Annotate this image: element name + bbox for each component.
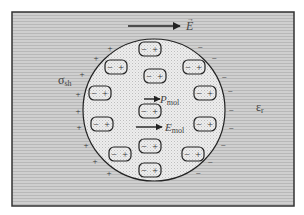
positive-charge: + (152, 141, 158, 152)
negative-charge: − (184, 149, 190, 160)
surface-negative-charge: − (197, 42, 202, 52)
surface-negative-charge: − (211, 53, 216, 63)
negative-charge: − (107, 62, 113, 73)
surface-positive-charge: + (75, 106, 80, 116)
negative-charge: − (196, 88, 202, 99)
vector-accent: → (187, 15, 194, 23)
negative-charge: − (91, 88, 97, 99)
positive-charge: + (102, 88, 108, 99)
diagram-canvas: E → +++++++++−−−−−−−−− −+−+−+−+−+−+−+−+−… (0, 0, 304, 215)
surface-negative-charge: − (220, 140, 225, 150)
positive-charge: + (157, 71, 163, 82)
dielectric-diagram: E → +++++++++−−−−−−−−− −+−+−+−+−+−+−+−+−… (0, 0, 304, 215)
positive-charge: + (207, 119, 213, 130)
surface-negative-charge: − (228, 105, 233, 115)
surface-positive-charge: + (79, 69, 84, 79)
surface-negative-charge: − (227, 86, 232, 96)
negative-charge: − (93, 119, 99, 130)
negative-charge: − (141, 106, 147, 117)
surface-positive-charge: + (92, 156, 97, 166)
positive-charge: + (152, 165, 158, 176)
surface-positive-charge: + (107, 43, 112, 53)
surface-positive-charge: + (75, 89, 80, 99)
positive-charge: + (207, 88, 213, 99)
negative-charge: − (141, 165, 147, 176)
positive-charge: + (195, 149, 201, 160)
surface-negative-charge: − (228, 123, 233, 133)
positive-charge: + (122, 149, 128, 160)
negative-charge: − (185, 62, 191, 73)
positive-charge: + (118, 62, 124, 73)
surface-negative-charge: − (207, 157, 212, 167)
positive-charge: + (152, 44, 158, 55)
negative-charge: − (146, 71, 152, 82)
surface-positive-charge: + (106, 168, 111, 178)
surface-positive-charge: + (83, 140, 88, 150)
negative-charge: − (141, 141, 147, 152)
positive-charge: + (104, 119, 110, 130)
negative-charge: − (141, 44, 147, 55)
surface-positive-charge: + (93, 53, 98, 63)
negative-charge: − (196, 119, 202, 130)
negative-charge: − (111, 149, 117, 160)
surface-negative-charge: − (221, 72, 226, 82)
positive-charge: + (152, 106, 158, 117)
positive-charge: + (196, 62, 202, 73)
surface-negative-charge: − (195, 168, 200, 178)
surface-positive-charge: + (76, 122, 81, 132)
